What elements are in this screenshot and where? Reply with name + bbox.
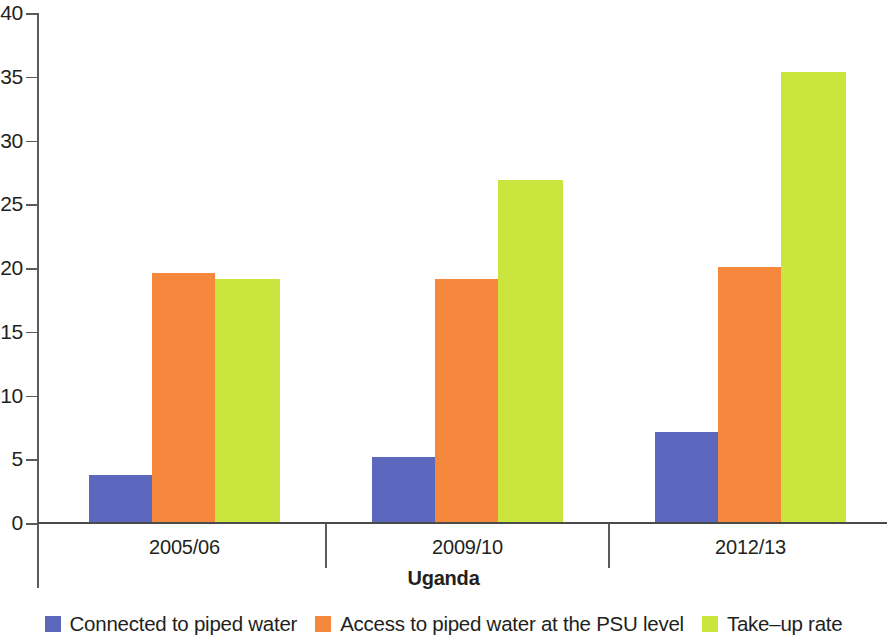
bar	[152, 273, 215, 523]
legend-item[interactable]: Connected to piped water	[45, 613, 298, 635]
legend-item[interactable]: Take–up rate	[702, 613, 843, 635]
x-axis-line	[37, 522, 887, 524]
y-axis-tick-mark	[26, 523, 37, 525]
legend-label: Take–up rate	[727, 613, 843, 635]
bar	[718, 267, 781, 523]
bar-chart: 0510152025303540 2005/062009/102012/13 U…	[0, 0, 887, 639]
bar	[498, 180, 563, 523]
legend-label: Access to piped water at the PSU level	[340, 613, 684, 635]
chart-legend: Connected to piped waterAccess to piped …	[0, 608, 887, 639]
legend-swatch-icon	[45, 616, 61, 632]
group-separator	[608, 524, 610, 568]
bar	[655, 432, 718, 523]
legend-swatch-icon	[315, 616, 331, 632]
x-axis-category-label: 2012/13	[681, 535, 821, 559]
bar	[435, 279, 498, 523]
bars-layer	[0, 13, 887, 523]
legend-label: Connected to piped water	[70, 613, 298, 635]
x-axis-category-label: 2009/10	[398, 535, 538, 559]
bar	[215, 279, 280, 523]
x-axis-category-label: 2005/06	[115, 535, 255, 559]
bar	[781, 72, 846, 523]
group-separator	[325, 524, 327, 568]
bar	[372, 457, 435, 523]
legend-item[interactable]: Access to piped water at the PSU level	[315, 613, 684, 635]
bar	[89, 475, 152, 523]
x-axis-title: Uganda	[0, 567, 887, 590]
legend-swatch-icon	[702, 616, 718, 632]
